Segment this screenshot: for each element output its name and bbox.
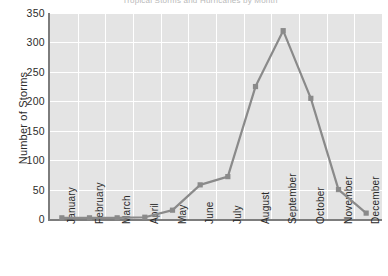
gridline-vertical [188, 13, 189, 219]
chart-figure: Tropical Storms and Hurricanes by Month … [0, 0, 388, 276]
y-axis-tick-label: 350 [5, 7, 45, 19]
y-axis: Number of Storms 050100150200250300350 [0, 0, 45, 276]
y-axis-tick-label: 0 [5, 213, 45, 225]
x-axis-tick-text: March [121, 195, 132, 224]
x-axis-tick-text: February [94, 182, 105, 224]
y-axis-tick-label: 300 [5, 36, 45, 48]
x-axis-tick-label-july: July [221, 224, 235, 276]
y-axis-tick-label: 150 [5, 125, 45, 137]
x-axis-tick-label-december: December [359, 224, 373, 276]
gridline-vertical [299, 13, 300, 219]
x-axis-tick-text: May [177, 205, 188, 225]
x-axis-tick-text: January [66, 187, 77, 224]
x-axis-tick-text: August [260, 192, 271, 224]
gridline-vertical [271, 13, 272, 219]
chart-title: Tropical Storms and Hurricanes by Month [60, 0, 340, 5]
gridline-vertical [327, 13, 328, 219]
x-axis-tick-text: June [204, 202, 215, 225]
gridline-vertical [244, 13, 245, 219]
x-axis-tick-text: July [232, 205, 243, 224]
x-axis-tick-label-may: May [166, 224, 180, 276]
x-axis-tick-label-november: November [332, 224, 346, 276]
gridline-vertical [133, 13, 134, 219]
x-axis-tick-text: November [343, 176, 354, 224]
x-axis-tick-text: September [287, 173, 298, 224]
y-axis-tick-label: 200 [5, 95, 45, 107]
gridline-vertical [216, 13, 217, 219]
x-axis-tick-text: October [315, 187, 326, 224]
gridline-vertical [78, 13, 79, 219]
x-axis-tick-text: April [149, 203, 160, 224]
x-axis-tick-label-january: January [55, 224, 69, 276]
gridline-vertical [161, 13, 162, 219]
x-axis-tick-label-february: February [83, 224, 97, 276]
x-axis-tick-label-march: March [110, 224, 124, 276]
x-axis-tick-label-october: October [304, 224, 318, 276]
x-axis-tick-label-april: April [138, 224, 152, 276]
x-axis-tick-text: December [370, 176, 381, 224]
gridline-vertical [105, 13, 106, 219]
y-axis-tick-label: 50 [5, 184, 45, 196]
gridline-vertical [354, 13, 355, 219]
x-axis-tick-label-september: September [276, 224, 290, 276]
y-axis-tick-label: 100 [5, 154, 45, 166]
x-axis-tick-label-august: August [249, 224, 263, 276]
x-axis-tick-label-june: June [193, 224, 207, 276]
y-axis-tick-label: 250 [5, 66, 45, 78]
